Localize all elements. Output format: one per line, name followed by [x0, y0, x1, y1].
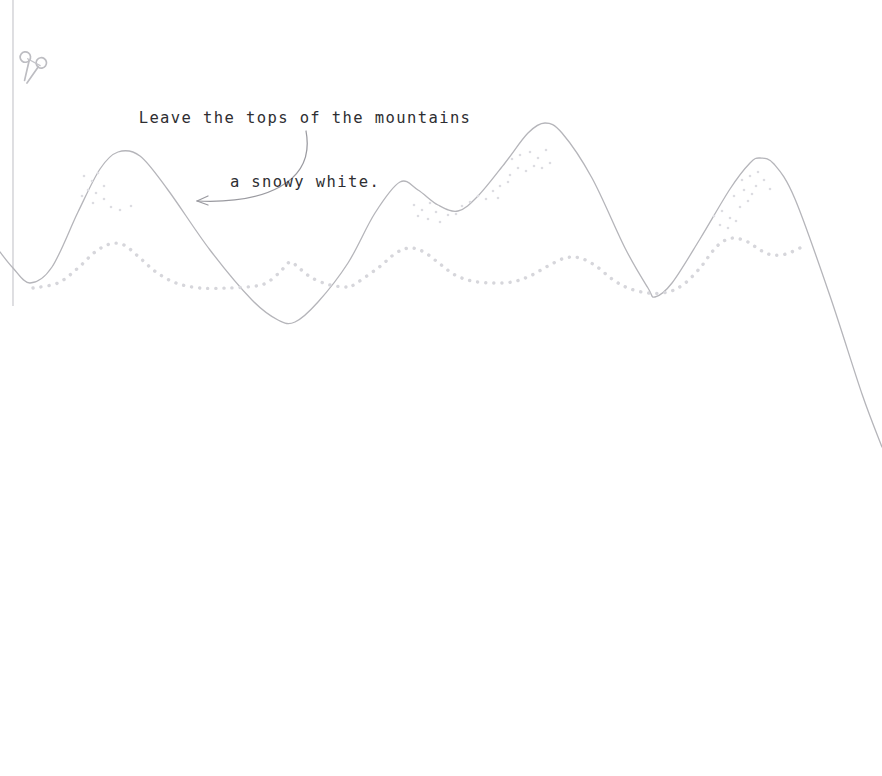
snow-speckle [747, 200, 750, 203]
snow-speckle [97, 172, 100, 175]
snow-speckle [757, 171, 760, 174]
snow-speckle [769, 188, 772, 191]
snow-speckle [741, 179, 744, 182]
snow-speckle [713, 215, 716, 218]
snow-speckle [733, 195, 736, 198]
scissors-icon [19, 49, 48, 83]
snow-speckle [92, 202, 95, 205]
instruction-text: Leave the tops of the mountains a snowy … [110, 70, 500, 230]
snow-speckle [81, 195, 84, 198]
snow-speckle [739, 206, 742, 209]
snow-speckle [103, 185, 106, 188]
snow-line-dotted [33, 238, 800, 293]
snow-speckle [103, 198, 106, 201]
snow-speckle [743, 189, 746, 192]
snow-speckle [751, 193, 754, 196]
snow-speckle [525, 170, 528, 173]
snow-speckle [755, 185, 758, 188]
snow-speckle [541, 167, 544, 170]
snow-speckle [721, 210, 724, 213]
snow-speckle [507, 181, 510, 184]
snow-speckle [83, 175, 86, 178]
snow-speckle [727, 227, 730, 230]
snow-speckle [749, 175, 752, 178]
snow-speckle [517, 167, 520, 170]
snow-speckle [519, 154, 522, 157]
snow-speckle [529, 151, 532, 154]
snow-speckle [763, 179, 766, 182]
snow-speckle [549, 162, 552, 165]
snow-speckle [511, 158, 514, 161]
instruction-line-2: a snowy white. [110, 166, 500, 198]
snow-speckle [87, 189, 90, 192]
snow-speckle [95, 192, 98, 195]
snow-speckle [735, 220, 738, 223]
snow-speckle [719, 224, 722, 227]
snow-speckle [509, 174, 512, 177]
snow-speckle [729, 217, 732, 220]
snow-speckle [91, 180, 94, 183]
worksheet-page: Leave the tops of the mountains a snowy … [0, 0, 882, 776]
instruction-line-1: Leave the tops of the mountains [110, 102, 500, 134]
snow-speckle [537, 157, 540, 160]
snow-speckle [545, 149, 548, 152]
snow-speckle [533, 165, 536, 168]
